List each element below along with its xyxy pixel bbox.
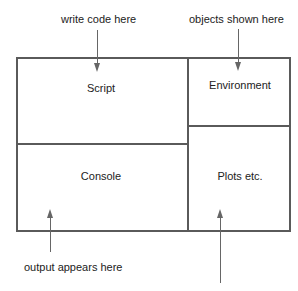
console-pane-label: Console [81,170,121,182]
script-pane-label: Script [87,82,115,94]
left-horizontal-divider [16,143,188,145]
console-annotation: output appears here [24,261,122,273]
script-arrow-down-icon [94,63,100,72]
console-arrow-shaft [50,217,52,252]
plots-arrow-shaft [220,217,222,283]
environment-pane-label: Environment [209,79,271,91]
environment-arrow-down-icon [235,62,241,71]
frame-right-border [289,57,291,232]
script-annotation: write code here [61,13,136,25]
script-arrow-shaft [97,30,99,64]
plots-pane-label: Plots etc. [217,170,262,182]
environment-arrow-shaft [238,29,240,63]
environment-annotation: objects shown here [189,13,284,25]
frame-bottom-border [16,230,291,232]
right-horizontal-divider [187,125,291,127]
frame-top-border [16,57,291,59]
